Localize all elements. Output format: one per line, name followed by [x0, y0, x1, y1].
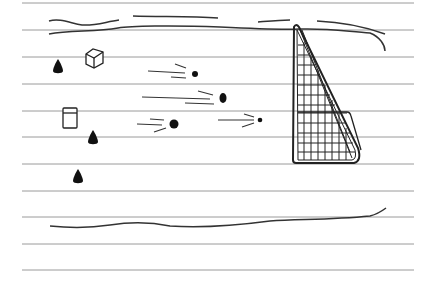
soccer-goal-net-icon — [293, 25, 361, 163]
moving-balls — [137, 64, 262, 132]
cone-icon — [88, 130, 98, 144]
cube-icon — [86, 49, 103, 68]
sketch-canvas — [0, 0, 434, 281]
ball-4 — [218, 114, 262, 127]
cone-icon — [73, 169, 83, 183]
boxes — [63, 49, 103, 128]
sketch-drawing — [0, 0, 434, 281]
ball-3 — [137, 119, 179, 132]
box-icon — [63, 108, 77, 128]
ball-2 — [142, 91, 227, 104]
ruled-lines — [22, 3, 414, 270]
ball-1 — [148, 64, 198, 78]
bottom-field-boundary — [50, 208, 386, 227]
top-field-boundary — [49, 16, 385, 51]
cone-icon — [53, 59, 63, 73]
